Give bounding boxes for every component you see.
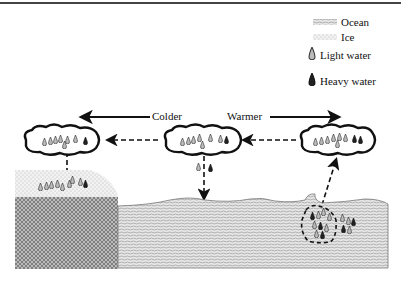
ocean-body (118, 194, 388, 268)
heavy-water-icon (309, 73, 315, 86)
warmer-label: Warmer (227, 110, 262, 122)
legend-heavy-water-label: Heavy water (320, 75, 376, 87)
colder-label: Colder (152, 110, 182, 122)
dashed-arrow-evaporation (322, 160, 336, 205)
ice-sheet (15, 170, 118, 197)
cloud-middle (165, 125, 241, 172)
light-water-icon (309, 47, 315, 60)
ocean-swatch (313, 19, 337, 25)
legend-ocean-label: Ocean (341, 16, 369, 28)
cloud-left (25, 125, 99, 155)
ice-swatch (313, 34, 337, 40)
land-block (15, 197, 118, 269)
cloud-right (301, 125, 375, 155)
legend-ice-label: Ice (341, 31, 354, 43)
legend-light-water-label: Light water (320, 49, 371, 61)
